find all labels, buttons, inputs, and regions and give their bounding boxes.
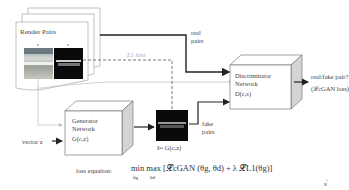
page-number: 6 bbox=[326, 177, 328, 185]
real-pairs-edge bbox=[100, 35, 229, 72]
max-subscript: θd bbox=[150, 175, 155, 180]
discriminator-label: Discriminator Network D(c,s) bbox=[235, 72, 271, 98]
output-loss: (𝓛cGAN loss) bbox=[311, 85, 349, 93]
l1-loss-label: L1 loss bbox=[127, 51, 146, 59]
fake-pairs-label: fake pairs bbox=[202, 120, 215, 135]
render-pairs-title: Render Pairs bbox=[20, 29, 56, 37]
loss-equation-formula: min max [𝓛cGAN (θg, θd) + λ 𝓛L1(θg)] bbox=[131, 163, 272, 174]
s-label: s bbox=[67, 41, 69, 49]
real-pairs-label: real pairs bbox=[191, 29, 204, 44]
c-label: c bbox=[37, 41, 39, 49]
generator-label: Generator Network G(c,z) bbox=[72, 117, 98, 143]
output-question: real/fake pair? bbox=[311, 73, 348, 81]
vector-z-label: vector z bbox=[22, 138, 43, 146]
loss-equation-label: loss equation: bbox=[76, 167, 112, 175]
min-subscript: θg bbox=[133, 175, 138, 180]
generated-image-label: ŝ= G(c,z) bbox=[157, 144, 181, 152]
